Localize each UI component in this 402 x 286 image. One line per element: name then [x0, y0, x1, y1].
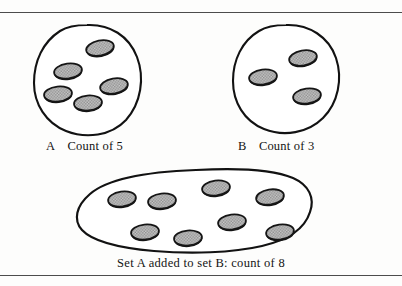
set-b-count-label: Count of 3	[259, 139, 314, 153]
set-a-name: A	[46, 139, 55, 153]
set-b-caption: B Count of 3	[238, 139, 314, 154]
union-set-group	[77, 169, 312, 252]
set-b-group	[233, 25, 339, 133]
set-a-count-label: Count of 5	[68, 139, 123, 153]
union-caption: Set A added to set B: count of 8	[0, 256, 402, 271]
union-caption-label: Set A added to set B: count of 8	[117, 256, 285, 270]
set-a-group	[34, 25, 141, 135]
set-addition-figure: A Count of 5 B Count of 3 Set A added to…	[0, 0, 402, 286]
set-a-caption: A Count of 5	[46, 139, 123, 154]
set-b-name: B	[238, 139, 247, 153]
